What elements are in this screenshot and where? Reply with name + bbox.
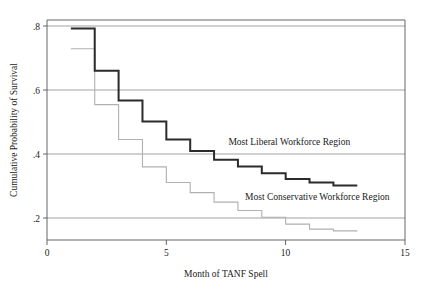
x-tick-label-15: 15 [400, 248, 410, 258]
series-label-most-conservative: Most Conservative Workforce Region [245, 192, 390, 202]
x-tick-label-0: 0 [45, 248, 50, 258]
y-tick-label-0.8: .8 [33, 22, 40, 32]
y-tick-label-0.2: .2 [33, 214, 40, 224]
x-tick-label-10: 10 [281, 248, 291, 258]
y-tick-label-0.6: .6 [33, 86, 40, 96]
chart-background [0, 0, 423, 289]
y-axis-title: Cumulative Probability of Survival [9, 63, 19, 197]
x-tick-label-5: 5 [164, 248, 169, 258]
chart-svg: .2 .4 .6 .8 0 5 10 15 Most Liberal Workf… [0, 0, 423, 289]
x-axis-title: Month of TANF Spell [184, 269, 268, 279]
survival-chart-figure: .2 .4 .6 .8 0 5 10 15 Most Liberal Workf… [0, 0, 423, 289]
series-label-most-liberal: Most Liberal Workforce Region [228, 137, 350, 147]
y-tick-label-0.4: .4 [33, 150, 40, 160]
